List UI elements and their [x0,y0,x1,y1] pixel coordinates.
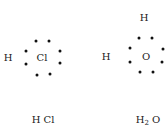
electron-dot [152,71,155,74]
h2o-caption: H2 O [136,115,161,125]
electron-dot [129,47,132,50]
caption-h: H [136,114,145,125]
electron-dot [151,37,154,40]
electron-dot [162,48,165,51]
electron-dot [59,50,62,53]
electron-dot [25,63,28,66]
electron-dot [48,40,51,43]
hydrogen-atom-left: H [102,52,111,62]
hydrogen-atom: H [4,53,13,63]
electron-dot [35,40,38,43]
chlorine-atom: Cl [37,53,48,63]
oxygen-atom: O [142,52,150,62]
caption-o: O [149,114,160,125]
hydrogen-atom-top: H [140,13,149,23]
electron-dot [129,61,132,64]
electron-dot [139,71,142,74]
electron-dot [36,74,39,77]
electron-dot [161,61,164,64]
electron-dot [59,62,62,65]
electron-dot [138,37,141,40]
hcl-caption: H Cl [32,115,55,125]
electron-dot [25,50,28,53]
electron-dot [49,73,52,76]
